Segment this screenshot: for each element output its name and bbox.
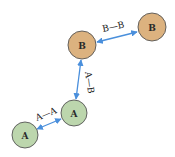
edge-label-a-a: A—A [33, 105, 59, 123]
node-a1[interactable]: A [12, 122, 38, 148]
edge-label-a-b: A—B [83, 70, 96, 95]
node-b2[interactable]: B [138, 13, 166, 41]
node-a2[interactable]: A [61, 100, 87, 126]
node-label: B [148, 23, 156, 33]
node-label: A [21, 131, 30, 141]
diagram-svg: A—A A—B B—B A A B B [0, 0, 175, 157]
diagram-canvas: A—A A—B B—B A A B B [0, 0, 175, 157]
node-label: A [70, 109, 79, 119]
node-b1[interactable]: B [68, 31, 96, 59]
node-label: B [78, 41, 86, 51]
edge-label-b-b: B—B [101, 19, 125, 33]
edge-a-b [76, 60, 81, 99]
